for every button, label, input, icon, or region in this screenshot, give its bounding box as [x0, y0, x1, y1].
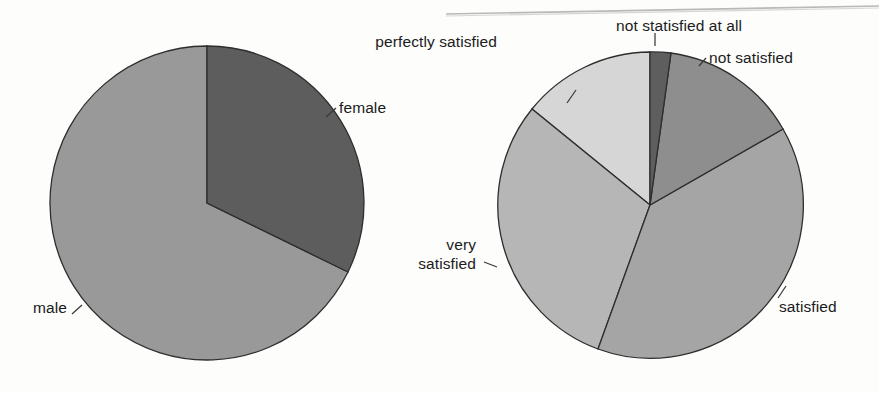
satisfaction-pie-chart: not statisfied at all not satisfied sati…	[375, 17, 836, 358]
pie-label-very-satisfied-line1: very	[446, 236, 476, 253]
figure-canvas: female male not statisfied at all not sa…	[0, 0, 879, 393]
pie-label-not-satisfied-at-all: not statisfied at all	[616, 17, 742, 34]
pie-label-male: male	[33, 299, 67, 316]
pie-label-very-satisfied-line2: satisfied	[418, 255, 476, 272]
scan-artifact-line	[446, 6, 879, 14]
leader-line-male	[72, 305, 82, 314]
gender-pie-chart: female male	[33, 46, 386, 360]
pie-label-not-satisfied: not satisfied	[709, 49, 793, 66]
pie-label-perfectly-satisfied: perfectly satisfied	[375, 33, 497, 50]
leader-line-very-satisfied	[484, 262, 497, 267]
pie-label-satisfied: satisfied	[779, 298, 837, 315]
pie-label-female: female	[339, 99, 386, 116]
pie-charts-svg: female male not statisfied at all not sa…	[0, 0, 879, 393]
